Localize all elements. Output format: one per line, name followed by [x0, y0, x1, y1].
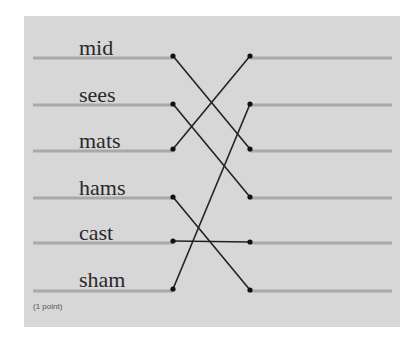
handle-mats	[170, 146, 175, 151]
connector-sham	[173, 104, 250, 289]
target-5	[247, 239, 252, 244]
word-label-mats: mats	[79, 130, 121, 152]
word-label-mid: mid	[79, 37, 113, 59]
connector-lines[interactable]	[173, 56, 250, 290]
connector-cast	[173, 241, 250, 242]
target-2	[247, 101, 252, 106]
connector-sees	[173, 104, 250, 197]
target-6	[247, 287, 252, 292]
right-answer-slots[interactable]	[250, 58, 392, 291]
connector-hams	[173, 197, 250, 290]
word-label-cast: cast	[79, 222, 113, 244]
target-4	[247, 194, 252, 199]
word-label-sham: sham	[79, 269, 125, 291]
word-label-sees: sees	[79, 84, 116, 106]
handle-sees	[170, 101, 175, 106]
handle-mid	[170, 53, 175, 58]
handle-hams	[170, 194, 175, 199]
handle-sham	[170, 286, 175, 291]
handle-cast	[170, 238, 175, 243]
matching-lines-canvas	[0, 0, 419, 345]
right-drop-targets[interactable]	[247, 53, 252, 292]
target-3	[247, 146, 252, 151]
points-label: (1 point)	[33, 302, 62, 311]
word-label-hams: hams	[79, 177, 125, 199]
target-1	[247, 53, 252, 58]
left-drag-handles[interactable]	[170, 53, 175, 291]
